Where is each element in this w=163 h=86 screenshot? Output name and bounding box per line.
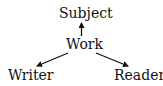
node-subject: Subject — [59, 5, 113, 21]
arrow-work-to-writer — [37, 53, 68, 66]
node-writer: Writer — [8, 67, 54, 83]
arrow-work-to-reader — [96, 53, 128, 66]
node-reader: Reader — [114, 67, 163, 83]
diagram: Subject Work Writer Reader — [0, 0, 163, 86]
node-work: Work — [66, 36, 103, 52]
